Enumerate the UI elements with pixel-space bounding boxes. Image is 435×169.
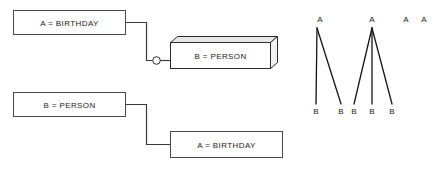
tree-one-to-two-edge-1 — [316, 28, 317, 104]
box-a-birthday-bottom[interactable]: A = BIRTHDAY — [171, 132, 283, 158]
connector-top-path-left — [126, 23, 153, 61]
connector-bottom[interactable] — [126, 105, 171, 145]
tree-one-to-three-leaf-label-3: B — [389, 107, 394, 116]
box-b-person-3d[interactable]: B = PERSON — [171, 37, 278, 69]
box-b-person-3d-side-face — [271, 37, 278, 69]
box-b-person-3d-top-face — [171, 37, 278, 43]
connector-bottom-path — [126, 105, 171, 145]
tree-one-to-two-leaf-label-1: B — [313, 107, 318, 116]
orphan-a-2-label: A — [421, 15, 427, 24]
optionality-circle-icon — [153, 57, 161, 65]
tree-one-to-two: A B B — [313, 15, 343, 116]
box-a-birthday-top[interactable]: A = BIRTHDAY — [14, 11, 126, 35]
tree-one-to-three-root-label: A — [369, 15, 375, 24]
tree-one-to-three-edge-3 — [372, 28, 392, 104]
tree-one-to-three-leaf-label-2: B — [369, 107, 374, 116]
orphan-a-1-label: A — [403, 15, 409, 24]
diagram-canvas: A = BIRTHDAY B = PERSON B = PERSON — [0, 0, 435, 169]
connector-top[interactable] — [126, 23, 171, 65]
box-b-person-bottom-label: B = PERSON — [43, 101, 95, 110]
tree-one-to-two-edge-2 — [317, 28, 341, 104]
tree-one-to-three: A B B B — [351, 15, 394, 116]
orphan-a-nodes: A A — [403, 15, 427, 24]
diagram-svg: A = BIRTHDAY B = PERSON B = PERSON — [0, 0, 435, 169]
box-a-birthday-bottom-label: A = BIRTHDAY — [197, 141, 256, 150]
box-b-person-bottom[interactable]: B = PERSON — [14, 93, 126, 117]
tree-one-to-three-edge-1 — [354, 28, 372, 104]
tree-one-to-two-leaf-label-2: B — [338, 107, 343, 116]
box-a-birthday-top-label: A = BIRTHDAY — [40, 19, 99, 28]
tree-one-to-two-root-label: A — [317, 15, 323, 24]
tree-one-to-three-leaf-label-1: B — [351, 107, 356, 116]
box-b-person-3d-label: B = PERSON — [194, 52, 246, 61]
